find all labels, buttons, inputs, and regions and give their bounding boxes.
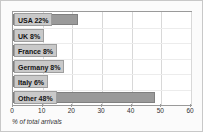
x-axis-tick-label: 10 [38, 107, 45, 114]
x-axis-tick-label: 20 [68, 107, 75, 114]
x-axis-tick-label: 60 [186, 107, 193, 114]
bar-row: UK 8% [13, 28, 191, 44]
x-axis-tick-label: 0 [10, 107, 14, 114]
bar-row: Italy 6% [13, 74, 191, 90]
plot-area: USA 22%UK 8%France 8%Germany 8%Italy 6%O… [12, 11, 192, 106]
bar-label: France 8% [14, 44, 57, 57]
x-axis-tick-labels: 0102030405060 [1, 107, 203, 117]
bar-chart: USA 22%UK 8%France 8%Germany 8%Italy 6%O… [0, 0, 203, 132]
bar-label: Germany 8% [14, 60, 64, 73]
bar-label: Italy 6% [14, 75, 48, 88]
x-axis-tick-label: 50 [157, 107, 164, 114]
x-axis-tick-label: 30 [97, 107, 104, 114]
bars-layer: USA 22%UK 8%France 8%Germany 8%Italy 6%O… [13, 12, 191, 105]
bar-label: USA 22% [14, 13, 52, 26]
bar-row: Germany 8% [13, 59, 191, 75]
bar-row: Other 48% [13, 90, 191, 106]
bar-row: France 8% [13, 43, 191, 59]
bar-row: USA 22% [13, 12, 191, 28]
bar-label: Other 48% [14, 91, 57, 104]
gridline-vertical [191, 12, 192, 105]
bar-label: UK 8% [14, 29, 44, 42]
x-axis-title: % of total arrivals [12, 118, 62, 125]
x-axis-tick-label: 40 [127, 107, 134, 114]
